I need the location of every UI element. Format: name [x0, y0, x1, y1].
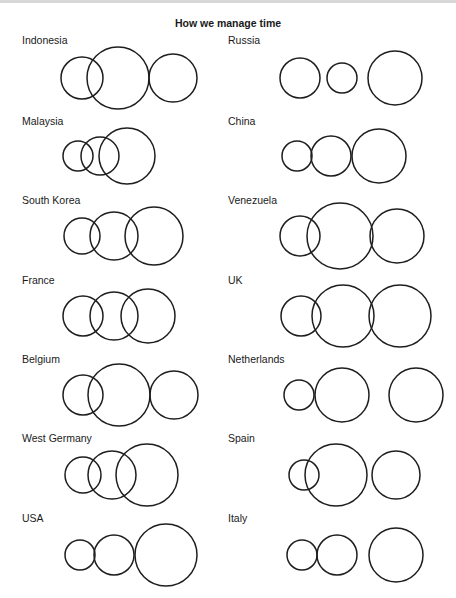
time-circle-icon: [149, 54, 197, 102]
time-circle-icon: [289, 460, 319, 490]
time-circle-icon: [63, 141, 93, 171]
country-circle-group: [61, 47, 197, 109]
time-circle-icon: [88, 364, 150, 426]
time-circle-icon: [370, 209, 424, 263]
time-circle-icon: [121, 289, 175, 343]
time-circle-icon: [282, 141, 312, 171]
time-circle-icon: [368, 51, 422, 105]
time-circle-icon: [317, 535, 357, 575]
country-circle-group: [63, 364, 198, 426]
country-circle-group: [65, 444, 178, 506]
time-circle-icon: [389, 368, 443, 422]
time-circle-icon: [369, 528, 423, 582]
time-circle-icon: [63, 296, 103, 336]
time-circle-icon: [125, 207, 183, 265]
time-circle-icon: [280, 58, 320, 98]
time-circle-icon: [287, 540, 317, 570]
time-circle-icon: [305, 444, 367, 506]
time-circle-icon: [63, 375, 103, 415]
time-circle-icon: [315, 368, 369, 422]
country-circle-group: [284, 368, 443, 422]
time-circle-icon: [94, 535, 134, 575]
country-circle-group: [289, 444, 420, 506]
time-circle-icon: [65, 540, 95, 570]
time-circle-icon: [61, 57, 103, 99]
country-circle-group: [64, 207, 183, 265]
country-circle-group: [280, 51, 422, 105]
country-circle-group: [65, 524, 197, 586]
time-circle-icon: [64, 218, 100, 254]
time-circle-icon: [116, 444, 178, 506]
time-circle-icon: [65, 457, 101, 493]
time-circle-icon: [327, 63, 357, 93]
time-circle-icon: [150, 371, 198, 419]
time-circle-icon: [307, 203, 373, 269]
time-circle-icon: [372, 451, 420, 499]
time-circle-icon: [90, 292, 138, 340]
country-circle-group: [287, 528, 423, 582]
time-circle-icon: [81, 137, 119, 175]
country-circle-group: [63, 128, 155, 184]
time-circle-icon: [280, 216, 320, 256]
time-circle-icon: [311, 136, 351, 176]
country-circle-group: [280, 203, 424, 269]
time-circle-icon: [88, 451, 136, 499]
time-circle-icon: [352, 129, 406, 183]
country-circle-group: [281, 285, 431, 347]
time-circle-icon: [135, 524, 197, 586]
time-circle-icon: [87, 47, 149, 109]
time-circles-diagram: [0, 0, 456, 598]
time-circle-icon: [369, 285, 431, 347]
country-circle-group: [282, 129, 406, 183]
time-circle-icon: [99, 128, 155, 184]
country-circle-group: [63, 289, 175, 343]
time-circle-icon: [284, 380, 314, 410]
